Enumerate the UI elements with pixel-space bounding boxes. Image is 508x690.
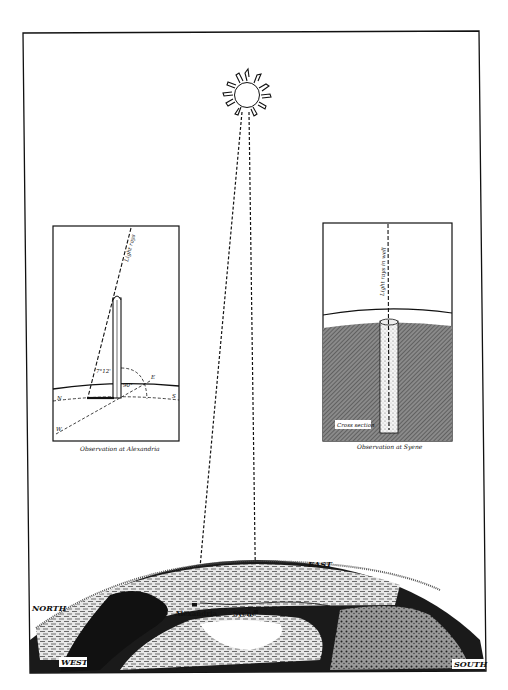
- sun-icon: [223, 69, 271, 116]
- right-angle-label: 90°: [123, 382, 133, 388]
- globe-north-label: NORTH: [31, 603, 67, 613]
- place-alexandria: Alexandria: [174, 609, 218, 618]
- globe-west-label: WEST: [61, 657, 89, 667]
- globe-south-label: SOUTH: [454, 659, 488, 669]
- globe-east-label: EAST: [307, 559, 333, 569]
- syene-marker: [254, 610, 258, 614]
- alexandria-marker: [192, 603, 197, 606]
- direction-south: S: [172, 393, 176, 399]
- syene-caption: Observation at Syene: [357, 443, 423, 451]
- globe: [30, 560, 486, 674]
- alexandria-panel: 7°12' 90° N S E W Light rays: [53, 226, 179, 441]
- angle-label: 7°12': [96, 368, 111, 374]
- cross-section-label: Cross section: [337, 422, 375, 428]
- alexandria-caption: Observation at Alexandria: [80, 445, 160, 452]
- eratosthenes-diagram: 7°12' 90° N S E W Light rays Observation…: [0, 0, 508, 690]
- place-syene: Syenê: [233, 609, 257, 618]
- ray-to-syene: [249, 112, 256, 620]
- ray-to-alexandria: [197, 112, 242, 600]
- syene-panel: Light rays in well Cross section: [323, 223, 452, 441]
- direction-east: E: [150, 374, 155, 380]
- direction-north: N: [56, 395, 62, 401]
